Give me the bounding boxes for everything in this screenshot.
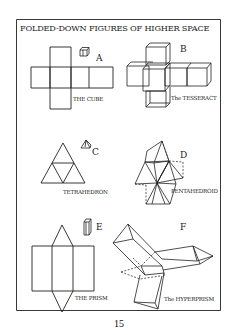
cube-icon (80, 48, 89, 57)
figure-letter-c: C (92, 147, 99, 157)
hyperprism-dashes (121, 252, 160, 279)
figure-caption-hyperprism: The HYPERPRISM (164, 296, 214, 302)
figure-letter-e: E (96, 222, 103, 232)
figure-caption-cube: THE CUBE (73, 96, 103, 102)
plate-title: FOLDED-DOWN FIGURES OF HIGHER SPACE (20, 23, 220, 33)
pentahedroid-dashes (135, 141, 183, 204)
figure-letter-f: F (180, 222, 186, 232)
figure-letter-a: A (96, 53, 103, 63)
figure-caption-tesseract: The TESSERACT (171, 95, 217, 101)
figure-caption-tetrahedron: TETRAHEDRON (63, 189, 108, 195)
tetrahedron-net (41, 143, 85, 183)
prism-icon (84, 219, 91, 235)
diagram-plate (0, 0, 238, 335)
figure-letter-d: D (180, 150, 187, 160)
figure-letter-b: B (180, 44, 187, 54)
tetrahedron-icon (81, 140, 91, 148)
figure-caption-prism: THE PRISM (75, 295, 107, 301)
figure-caption-pentahedroid: PENTAHEDROID (171, 188, 218, 194)
page-number: 15 (0, 318, 238, 329)
pentahedroid-net (135, 141, 183, 204)
